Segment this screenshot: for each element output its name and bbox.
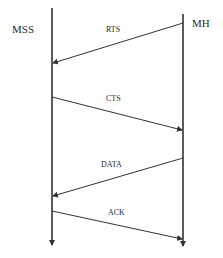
data-label: DATA bbox=[101, 160, 122, 169]
mh-label: MH bbox=[192, 17, 210, 29]
cts-label: CTS bbox=[106, 94, 121, 103]
rts-label: RTS bbox=[106, 25, 120, 34]
sequence-diagram: MSS MH RTS CTS DATA ACK bbox=[0, 0, 223, 258]
mss-label: MSS bbox=[12, 23, 34, 35]
ack-label: ACK bbox=[108, 208, 125, 217]
